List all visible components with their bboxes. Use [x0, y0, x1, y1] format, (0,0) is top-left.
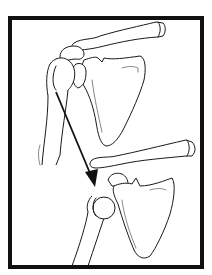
shoulder-dislocation-diagram [0, 0, 212, 275]
dislocation-arrow [56, 92, 98, 187]
illustration-canvas: Line illustration of a shoulder joint sh… [0, 0, 212, 275]
upper-humerus [42, 58, 75, 165]
upper-scapula [81, 56, 145, 146]
lower-shoulder [72, 140, 195, 266]
lower-scapula [113, 178, 174, 258]
arrow-head-icon [85, 169, 98, 187]
upper-clavicle [72, 22, 165, 50]
